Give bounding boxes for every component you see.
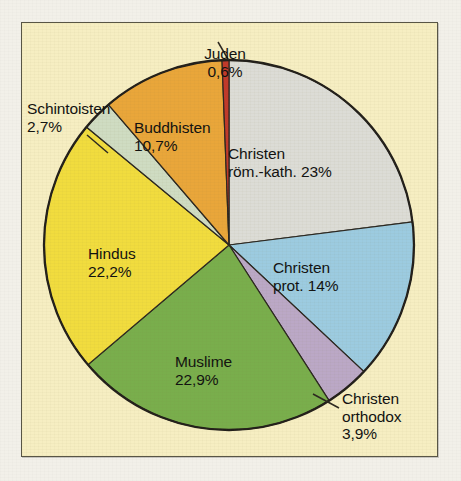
slice-label-schintoisten-value: 2,7% bbox=[27, 118, 110, 136]
slice-label-christen-kath: Christen röm.-kath. 23% bbox=[228, 145, 332, 180]
slice-label-christen-orthodox-sub: orthodox bbox=[342, 408, 402, 426]
slice-label-juden-name: Juden bbox=[170, 45, 280, 63]
slice-label-schintoisten: Schintoisten 2,7% bbox=[27, 100, 110, 135]
slice-label-christen-kath-name: Christen bbox=[228, 145, 332, 163]
slice-label-hindus-value: 22,2% bbox=[88, 263, 136, 281]
slice-label-schintoisten-name: Schintoisten bbox=[27, 100, 110, 118]
slice-label-christen-prot-value: prot. 14% bbox=[273, 277, 338, 295]
chart-panel: Juden 0,6% Schintoisten 2,7% Buddhisten … bbox=[21, 22, 438, 457]
slice-label-juden: Juden 0,6% bbox=[170, 45, 280, 80]
pie-chart: Juden 0,6% Schintoisten 2,7% Buddhisten … bbox=[22, 23, 437, 456]
slice-label-buddhisten-value: 10,7% bbox=[134, 137, 211, 155]
slice-label-christen-prot-name: Christen bbox=[273, 259, 338, 277]
slice-label-christen-kath-value: röm.-kath. 23% bbox=[228, 163, 332, 181]
screenshot-root: Juden 0,6% Schintoisten 2,7% Buddhisten … bbox=[0, 0, 461, 481]
slice-label-juden-value: 0,6% bbox=[170, 63, 280, 81]
slice-label-christen-orthodox-value: 3,9% bbox=[342, 425, 402, 443]
slice-label-muslime: Muslime 22,9% bbox=[175, 353, 232, 388]
slice-label-muslime-value: 22,9% bbox=[175, 371, 232, 389]
slice-label-hindus: Hindus 22,2% bbox=[88, 245, 136, 280]
slice-label-hindus-name: Hindus bbox=[88, 245, 136, 263]
slice-label-christen-orthodox: Christen orthodox 3,9% bbox=[342, 390, 402, 443]
slice-label-buddhisten-name: Buddhisten bbox=[134, 119, 211, 137]
slice-label-muslime-name: Muslime bbox=[175, 353, 232, 371]
slice-label-christen-orthodox-name: Christen bbox=[342, 390, 402, 408]
slice-label-christen-prot: Christen prot. 14% bbox=[273, 259, 338, 294]
slice-label-buddhisten: Buddhisten 10,7% bbox=[134, 119, 211, 154]
